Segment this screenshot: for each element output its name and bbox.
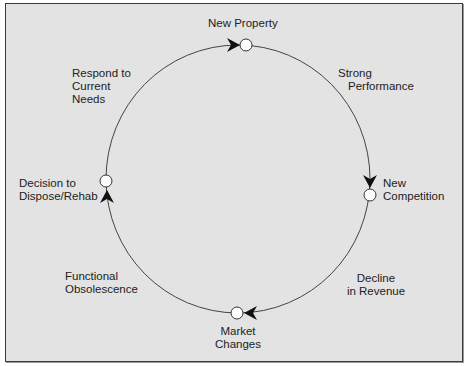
label-respond-line3: Needs <box>72 93 131 106</box>
label-functional-line2: Obsolescence <box>65 283 138 296</box>
label-decline-in-revenue: Decline in Revenue <box>342 272 410 298</box>
label-functional-line1: Functional <box>65 270 138 283</box>
label-decision: Decision to Dispose/Rehab <box>19 177 98 203</box>
node-new-competition <box>364 189 376 201</box>
label-strong-performance-line2: Performance <box>338 80 414 93</box>
label-new-property: New Property <box>208 17 278 30</box>
label-market-changes: Market Changes <box>213 325 263 351</box>
arrow-to-market-changes-icon <box>244 306 257 320</box>
label-new-competition-line2: Competition <box>383 190 444 203</box>
arrow-to-decision-icon <box>100 190 114 203</box>
node-new-property <box>240 39 252 51</box>
label-strong-performance: Strong Performance <box>338 67 414 93</box>
label-decision-line1: Decision to <box>19 177 98 190</box>
cycle-path <box>106 45 370 313</box>
label-decision-line2: Dispose/Rehab <box>19 190 98 203</box>
node-decision <box>100 175 112 187</box>
label-market-changes-line1: Market <box>213 325 263 338</box>
label-decline-line2: in Revenue <box>342 285 410 298</box>
label-respond-line1: Respond to <box>72 67 131 80</box>
label-market-changes-line2: Changes <box>213 338 263 351</box>
label-new-competition: New Competition <box>383 177 444 203</box>
label-functional-obsolescence: Functional Obsolescence <box>65 270 138 296</box>
label-respond-line2: Current <box>72 80 131 93</box>
label-respond-to-current-needs: Respond to Current Needs <box>72 67 131 106</box>
label-strong-performance-line1: Strong <box>338 67 414 80</box>
node-market-changes <box>231 307 243 319</box>
label-new-competition-line1: New <box>383 177 444 190</box>
label-decline-line1: Decline <box>342 272 410 285</box>
